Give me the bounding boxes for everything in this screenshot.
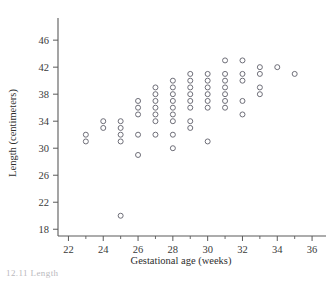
- x-tick-label: 22: [63, 244, 74, 255]
- data-point: [101, 125, 106, 130]
- data-point: [257, 85, 262, 90]
- data-point: [170, 98, 175, 103]
- x-axis: 2224262830323436: [58, 236, 326, 255]
- data-point: [240, 58, 245, 63]
- y-tick-label: 42: [39, 62, 50, 73]
- y-axis: 1822263034384246: [39, 18, 59, 236]
- data-point: [223, 78, 228, 83]
- data-point: [170, 112, 175, 117]
- data-point: [240, 71, 245, 76]
- page-caption-fragment: 12.11 Length: [6, 268, 58, 278]
- y-axis-title: Length (centimeters): [7, 89, 19, 177]
- data-point: [275, 65, 280, 70]
- y-tick-label: 46: [39, 35, 50, 46]
- x-tick-label: 34: [272, 244, 283, 255]
- data-point: [188, 119, 193, 124]
- data-point: [136, 152, 141, 157]
- data-point: [188, 125, 193, 130]
- data-point: [153, 119, 158, 124]
- data-point: [153, 105, 158, 110]
- data-point: [223, 92, 228, 97]
- data-point: [136, 112, 141, 117]
- data-point: [170, 146, 175, 151]
- data-point: [136, 132, 141, 137]
- y-tick-label: 30: [39, 143, 50, 154]
- data-point: [240, 98, 245, 103]
- data-point: [170, 85, 175, 90]
- data-point: [136, 105, 141, 110]
- y-tick-label: 34: [39, 116, 50, 127]
- data-point: [257, 65, 262, 70]
- data-points-layer: [83, 58, 297, 218]
- data-point: [118, 119, 123, 124]
- data-point: [223, 71, 228, 76]
- data-point: [188, 85, 193, 90]
- data-point: [153, 132, 158, 137]
- data-point: [170, 105, 175, 110]
- data-point: [83, 132, 88, 137]
- data-point: [205, 98, 210, 103]
- data-point: [205, 105, 210, 110]
- data-point: [153, 98, 158, 103]
- x-tick-label: 32: [237, 244, 248, 255]
- data-point: [170, 119, 175, 124]
- y-tick-label: 26: [39, 170, 50, 181]
- data-point: [170, 92, 175, 97]
- x-tick-label: 24: [98, 244, 109, 255]
- data-point: [118, 139, 123, 144]
- data-point: [205, 71, 210, 76]
- data-point: [223, 98, 228, 103]
- x-tick-label: 28: [168, 244, 179, 255]
- data-point: [188, 78, 193, 83]
- data-point: [136, 98, 141, 103]
- data-point: [292, 71, 297, 76]
- data-point: [170, 132, 175, 137]
- data-point: [118, 213, 123, 218]
- data-point: [153, 85, 158, 90]
- data-point: [240, 78, 245, 83]
- x-tick-label: 26: [133, 244, 144, 255]
- data-point: [170, 78, 175, 83]
- data-point: [223, 85, 228, 90]
- y-tick-label: 18: [39, 224, 50, 235]
- data-point: [188, 98, 193, 103]
- data-point: [101, 119, 106, 124]
- data-point: [223, 105, 228, 110]
- y-tick-label: 38: [39, 89, 50, 100]
- data-point: [153, 112, 158, 117]
- data-point: [188, 105, 193, 110]
- data-point: [257, 92, 262, 97]
- data-point: [205, 139, 210, 144]
- data-point: [83, 139, 88, 144]
- data-point: [205, 85, 210, 90]
- data-point: [205, 92, 210, 97]
- data-point: [188, 92, 193, 97]
- data-point: [118, 132, 123, 137]
- data-point: [153, 92, 158, 97]
- data-point: [118, 125, 123, 130]
- y-tick-label: 22: [39, 197, 50, 208]
- plot-canvas: 1822263034384246 2224262830323436 Gestat…: [0, 0, 331, 285]
- x-tick-label: 30: [202, 244, 213, 255]
- x-axis-title: Gestational age (weeks): [131, 255, 232, 267]
- data-point: [188, 71, 193, 76]
- x-tick-label: 36: [307, 244, 318, 255]
- data-point: [223, 58, 228, 63]
- scatter-plot-figure: 1822263034384246 2224262830323436 Gestat…: [0, 0, 331, 285]
- data-point: [257, 71, 262, 76]
- data-point: [205, 78, 210, 83]
- data-point: [240, 112, 245, 117]
